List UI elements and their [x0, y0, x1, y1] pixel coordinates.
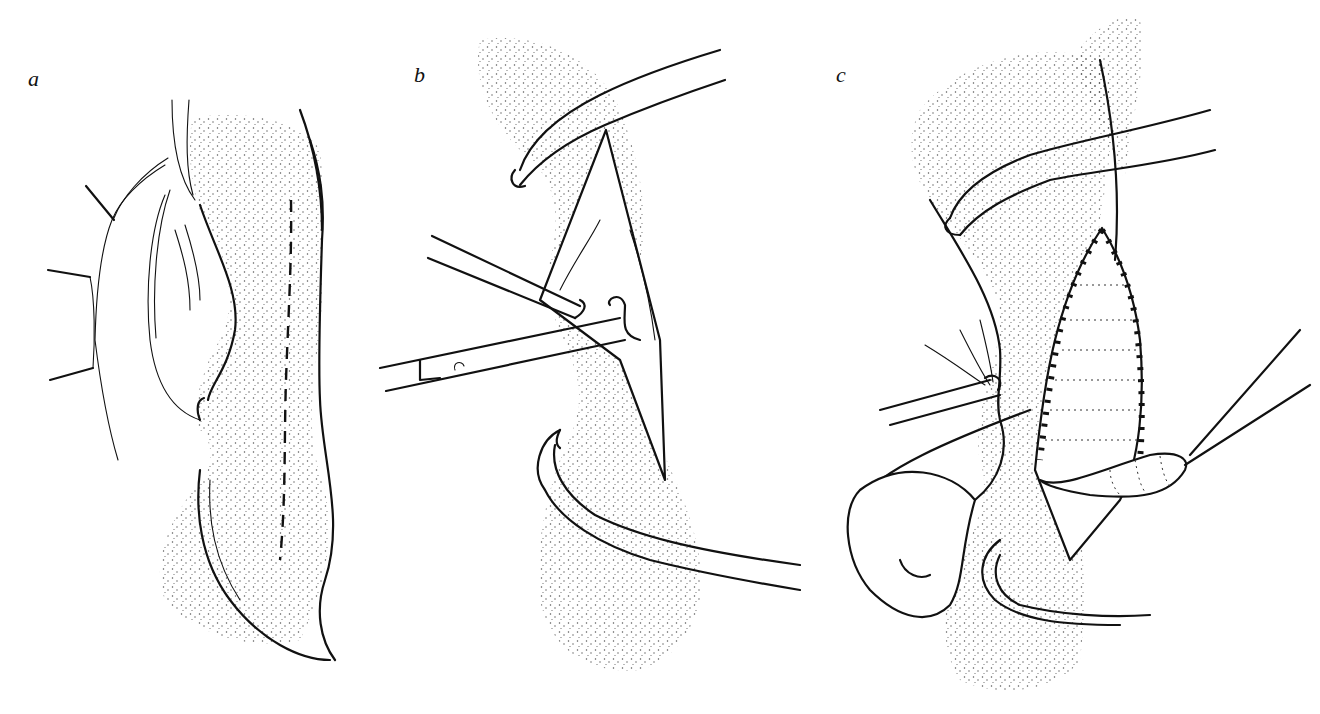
- panel-b: [380, 38, 800, 671]
- surgical-illustration: a b c: [0, 0, 1320, 714]
- panel-a: [48, 100, 335, 660]
- illustration-canvas: [0, 0, 1320, 714]
- panel-c: [848, 17, 1310, 690]
